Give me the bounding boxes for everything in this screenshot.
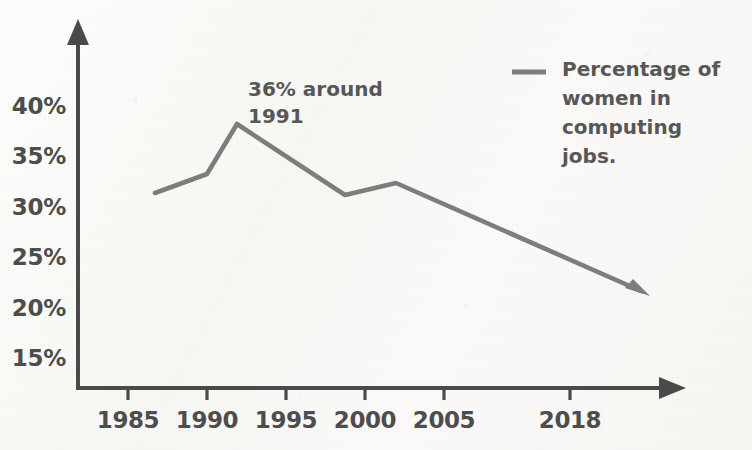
x-tick-label-2018: 2018 (520, 407, 620, 433)
legend-label: Percentage of women in computing jobs. (562, 55, 748, 171)
x-axis-ticks (128, 389, 570, 400)
chart-container: 40% 35% 30% 25% 20% 15% 1985 1990 1995 2… (0, 0, 752, 450)
peak-annotation-line-1: 36% around (248, 76, 438, 103)
x-axis (76, 377, 686, 399)
y-tick-label-15: 15% (0, 345, 66, 371)
y-tick-label-40: 40% (0, 93, 66, 119)
y-tick-label-30: 30% (0, 194, 66, 220)
legend-label-line-2: women in (562, 84, 748, 113)
peak-annotation: 36% around 1991 (248, 76, 438, 130)
peak-annotation-line-2: 1991 (248, 103, 438, 130)
legend-label-line-3: computing (562, 113, 748, 142)
y-axis (67, 19, 89, 389)
x-tick-label-2005: 2005 (394, 407, 494, 433)
legend-label-line-1: Percentage of (562, 55, 748, 84)
y-tick-label-25: 25% (0, 244, 66, 270)
legend-label-line-4: jobs. (562, 142, 748, 171)
y-tick-label-35: 35% (0, 143, 66, 169)
y-tick-label-20: 20% (0, 295, 66, 321)
